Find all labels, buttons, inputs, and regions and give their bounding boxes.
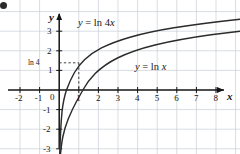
ln4-annotation-label: ln 4 bbox=[28, 59, 39, 67]
x-tick-label--2: -2 bbox=[15, 94, 23, 103]
curve-label-ln-4x: y = ln 4x bbox=[78, 18, 115, 29]
plot-canvas bbox=[0, 0, 240, 154]
y-tick-label-3: 3 bbox=[47, 27, 52, 36]
logarithm-graph-figure: -2 -1 0 1 2 3 4 5 6 7 8 3 2 1 -1 -2 -3 l… bbox=[0, 0, 240, 154]
y-tick-label-2: 2 bbox=[47, 47, 52, 56]
y-tick-label-1: 1 bbox=[48, 66, 53, 75]
y-tick-label--3: -3 bbox=[43, 145, 51, 154]
y-axis-label: y bbox=[49, 12, 54, 23]
x-tick-label-4: 4 bbox=[135, 94, 140, 103]
x-tick-label--1: -1 bbox=[35, 94, 43, 103]
x-tick-label-6: 6 bbox=[174, 94, 179, 103]
y-tick-label--1: -1 bbox=[43, 106, 51, 115]
curve-ln-x bbox=[60, 31, 240, 154]
curve-label-ln-x: y = ln x bbox=[135, 62, 166, 73]
x-tick-label-8: 8 bbox=[214, 94, 219, 103]
x-tick-label-0: 0 bbox=[50, 93, 55, 102]
guide-dashed-lines bbox=[59, 63, 79, 90]
x-tick-label-3: 3 bbox=[116, 94, 121, 103]
curve-ln-4x bbox=[60, 19, 240, 154]
y-axis-arrowhead bbox=[56, 13, 62, 20]
y-tick-label--2: -2 bbox=[43, 125, 51, 134]
x-tick-label-7: 7 bbox=[194, 94, 199, 103]
axis-lines bbox=[8, 14, 224, 148]
x-tick-label-1: 1 bbox=[76, 94, 81, 103]
x-tick-label-2: 2 bbox=[96, 94, 101, 103]
x-axis-arrowhead bbox=[217, 87, 224, 93]
x-tick-label-5: 5 bbox=[155, 94, 160, 103]
x-axis-label: x bbox=[227, 91, 233, 102]
